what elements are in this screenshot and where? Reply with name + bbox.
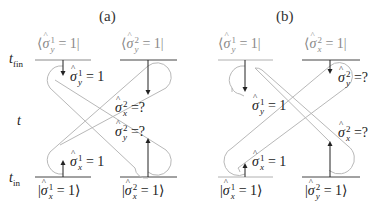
rest: = 1 bbox=[82, 154, 104, 169]
bra-a-1: ⟨σ1y = 1| bbox=[37, 36, 80, 54]
annot-b-s2y: σ2y =? bbox=[338, 70, 368, 88]
bra-a-2: ⟨σ2y = 1| bbox=[121, 36, 164, 54]
rest: =? bbox=[350, 125, 368, 140]
sigma-op: σ bbox=[70, 70, 77, 84]
rest: = 1 bbox=[264, 98, 286, 113]
time-label-final: tfin bbox=[9, 52, 23, 66]
sigma-op: σ bbox=[70, 155, 77, 169]
bra-b-2: ⟨σ2x = 1| bbox=[304, 36, 347, 54]
rest: =? bbox=[350, 70, 368, 85]
arrow-head-up-left-a bbox=[61, 160, 66, 165]
arrow-head-down-right-b bbox=[328, 69, 333, 74]
sigma-op: σ bbox=[252, 155, 259, 169]
loop-b-3 bbox=[232, 88, 244, 96]
sigma-op: σ bbox=[252, 99, 259, 113]
rest: = 1⟩ bbox=[53, 183, 80, 198]
diagram-canvas bbox=[0, 0, 388, 212]
rest: = 1⟩ bbox=[137, 183, 164, 198]
loop-b-1 bbox=[229, 66, 245, 92]
sigma-op: σ bbox=[42, 37, 49, 51]
ket-a-2: |σ2x = 1⟩ bbox=[122, 183, 165, 201]
sigma-op: σ bbox=[223, 37, 230, 51]
arrow-head-down-right-a bbox=[146, 90, 151, 95]
time-label-middle: t bbox=[17, 114, 21, 128]
rest: = 1| bbox=[236, 36, 261, 51]
panel-a-graphics bbox=[35, 60, 177, 178]
rest: = 1| bbox=[322, 36, 347, 51]
arrow-head-up-right-b bbox=[328, 141, 333, 146]
arrow-head-up-right-a bbox=[146, 138, 151, 143]
sigma-op: σ bbox=[223, 184, 230, 198]
sigma-op: σ bbox=[41, 184, 48, 198]
annot-b-s2x: σ2x =? bbox=[338, 125, 368, 143]
arrow-head-down-left-b bbox=[243, 87, 248, 92]
annot-b-s1y: σ1y = 1 bbox=[252, 98, 286, 116]
sigma-op: σ bbox=[126, 37, 133, 51]
annot-a-s1x: σ1x = 1 bbox=[70, 154, 104, 172]
annot-a-s2x: σ2x =? bbox=[115, 100, 145, 118]
time-label-initial: tin bbox=[9, 171, 20, 185]
sigma-op: σ bbox=[338, 71, 345, 85]
sigma-op: σ bbox=[125, 184, 132, 198]
ket-b-1: |σ1x = 1⟩ bbox=[220, 183, 263, 201]
rest: = 1 bbox=[82, 69, 104, 84]
rest: = 1⟩ bbox=[235, 183, 262, 198]
rest: =? bbox=[127, 124, 145, 139]
panel-title-b: (b) bbox=[276, 8, 294, 25]
t-symbol-middle: t bbox=[17, 113, 21, 128]
sigma-op: σ bbox=[309, 37, 316, 51]
sigma-op: σ bbox=[308, 184, 315, 198]
t-sub-fin: fin bbox=[13, 59, 23, 69]
ket-b-2: |σ2y = 1⟩ bbox=[305, 183, 348, 201]
annot-b-s1x: σ1x = 1 bbox=[252, 154, 286, 172]
arrow-head-down-left-a bbox=[61, 71, 66, 76]
annot-a-s2y: σ2y =? bbox=[115, 124, 145, 142]
sigma-op: σ bbox=[338, 126, 345, 140]
rest: =? bbox=[127, 100, 145, 115]
sigma-op: σ bbox=[115, 101, 122, 115]
annot-a-s1y: σ1y = 1 bbox=[70, 69, 104, 87]
sigma-op: σ bbox=[115, 125, 122, 139]
rest: = 1 bbox=[264, 154, 286, 169]
ket-a-1: |σ1x = 1⟩ bbox=[38, 183, 81, 201]
bra-b-1: ⟨σ1y = 1| bbox=[218, 36, 261, 54]
rest: = 1⟩ bbox=[320, 183, 347, 198]
rest: = 1| bbox=[55, 36, 80, 51]
panel-title-a: (a) bbox=[99, 8, 116, 25]
rest: = 1| bbox=[139, 36, 164, 51]
t-sub-in: in bbox=[13, 178, 20, 188]
